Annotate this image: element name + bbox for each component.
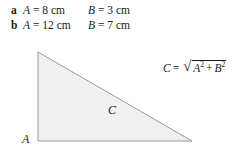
answer-b-left-equation: A = 12 cm — [23, 18, 71, 33]
pythagorean-formula: C=√A2+B2 — [163, 60, 226, 75]
answer-marker-a: a — [11, 3, 17, 18]
right-triangle-figure: A B C — [0, 40, 246, 161]
answer-b-right-value: = 7 cm — [98, 19, 130, 31]
formula-equals-sign: = — [171, 62, 182, 74]
answer-a-right-equation: B = 3 cm — [88, 3, 130, 18]
answer-a-right-value: = 3 cm — [98, 4, 130, 16]
answer-a-left-variable: A — [23, 4, 30, 16]
answer-marker-b: b — [11, 18, 17, 33]
formula-plus-sign: + — [204, 62, 215, 74]
triangle-label-a: A — [22, 133, 29, 145]
answer-b-right-variable: B — [88, 19, 95, 31]
answer-a-left-equation: A = 8 cm — [23, 3, 65, 18]
answer-b-left-value: = 12 cm — [33, 19, 71, 31]
triangle-graphic — [0, 40, 246, 161]
answer-a-left-value: = 8 cm — [33, 4, 65, 16]
radicand: A2+B2 — [192, 60, 226, 75]
formula-exponent-b: 2 — [221, 60, 225, 69]
triangle-label-c: C — [108, 104, 116, 116]
answer-b-right-equation: B = 7 cm — [88, 18, 130, 33]
radical-sign-icon: √ — [183, 59, 191, 74]
answer-a-right-variable: B — [88, 4, 95, 16]
formula-result-variable: C — [163, 62, 171, 74]
square-root-expression: √A2+B2 — [183, 60, 226, 75]
answer-b-left-variable: A — [23, 19, 30, 31]
